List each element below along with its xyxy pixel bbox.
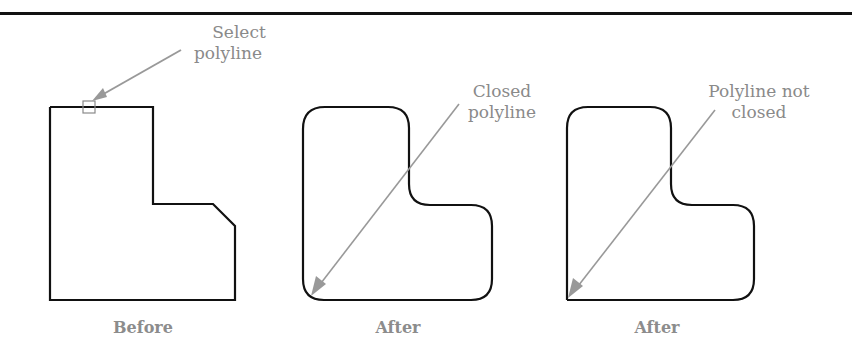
caption-before: Before — [83, 318, 203, 337]
after-not-closed-shape — [567, 107, 754, 300]
callout-closed-polyline: Closed polyline — [452, 81, 552, 123]
callout-polyline-not-closed: Polyline not closed — [689, 81, 829, 123]
after-closed-shape — [303, 107, 492, 300]
closed-leader-arrow-icon — [311, 104, 459, 296]
callout-line: polyline — [452, 102, 552, 123]
callout-line: Select — [178, 22, 278, 43]
callout-line: Polyline not — [689, 81, 829, 102]
caption-after-not-closed: After — [597, 318, 717, 337]
caption-after-closed: After — [338, 318, 458, 337]
figure-canvas — [0, 0, 856, 356]
callout-select-polyline: Select polyline — [178, 22, 278, 64]
before-shape — [50, 101, 235, 300]
callout-line: polyline — [178, 43, 278, 64]
callout-line: closed — [689, 102, 829, 123]
callout-line: Closed — [452, 81, 552, 102]
select-leader-arrow-icon — [92, 50, 181, 101]
